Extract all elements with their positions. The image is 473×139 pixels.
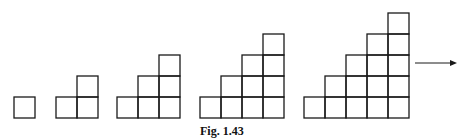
continuation-arrow-icon [415,60,457,66]
unit-square [388,97,409,118]
staircase-pattern-4 [200,34,284,118]
unit-square [159,97,180,118]
unit-square [388,76,409,97]
unit-square [367,97,388,118]
unit-square [221,76,242,97]
unit-square [346,76,367,97]
unit-square [138,76,159,97]
unit-square [263,34,284,55]
unit-square [77,76,98,97]
unit-square [346,97,367,118]
unit-square [242,55,263,76]
unit-square [242,97,263,118]
figure-caption: Fig. 1.43 [200,124,244,139]
unit-square [221,97,242,118]
unit-square [325,97,346,118]
staircase-figure [0,0,473,139]
staircase-patterns [14,13,409,118]
unit-square [242,76,263,97]
unit-square [346,55,367,76]
unit-square [388,34,409,55]
unit-square [263,55,284,76]
unit-square [263,76,284,97]
unit-square [263,97,284,118]
unit-square [14,97,35,118]
unit-square [138,97,159,118]
unit-square [200,97,221,118]
unit-square [367,76,388,97]
staircase-pattern-3 [117,55,180,118]
unit-square [304,97,325,118]
unit-square [56,97,77,118]
unit-square [325,76,346,97]
unit-square [388,55,409,76]
unit-square [367,55,388,76]
unit-square [77,97,98,118]
staircase-pattern-5 [304,13,409,118]
unit-square [367,34,388,55]
staircase-pattern-1 [14,97,35,118]
unit-square [159,55,180,76]
unit-square [159,76,180,97]
unit-square [117,97,138,118]
staircase-pattern-2 [56,76,98,118]
unit-square [388,13,409,34]
